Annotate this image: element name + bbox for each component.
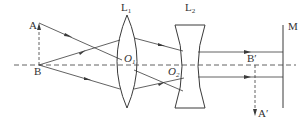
ray-arrow-icon (84, 77, 91, 80)
label-L2: L2 (185, 1, 196, 15)
incident-rays (39, 23, 122, 89)
ray-arrow-icon (158, 43, 165, 46)
image-arrow (253, 65, 257, 116)
label-A-prime: A′ (258, 107, 268, 119)
label-B: B (34, 65, 41, 77)
ray-arrow-icon (244, 75, 251, 79)
concave-lens-L2 (175, 25, 205, 108)
emergent-rays (198, 52, 283, 77)
label-M: M (288, 20, 298, 32)
label-B-prime: B′ (247, 52, 257, 64)
optics-diagram: A B L1 O1 L2 O2 M B′ A′ (0, 0, 305, 124)
label-L1: L1 (121, 1, 132, 15)
label-O2: O2 (168, 65, 180, 79)
label-A: A (29, 19, 37, 31)
object-arrow (37, 23, 41, 65)
arrow-down-icon (253, 109, 257, 116)
label-O1: O1 (124, 52, 135, 66)
ray-arrow-icon (64, 33, 72, 37)
